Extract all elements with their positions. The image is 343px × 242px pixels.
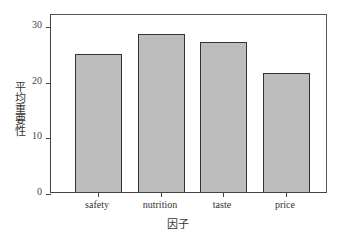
bar-price [263,73,310,192]
x-tick-label: price [245,199,325,210]
y-tick-label: 20 [12,75,42,86]
y-tick [46,83,51,84]
x-tick [223,192,224,197]
x-tick [98,192,99,197]
x-tick [161,192,162,197]
plot-area [50,14,327,193]
x-axis-label: 因子 [167,215,189,231]
x-tick [286,192,287,197]
bar-taste [200,42,247,192]
y-tick [46,138,51,139]
y-axis-label: 平均重要性 [13,81,25,136]
y-tick [46,194,51,195]
y-tick-label: 0 [12,186,42,197]
y-tick [46,27,51,28]
y-tick-label: 30 [12,19,42,30]
bar-nutrition [138,34,185,192]
y-tick-label: 10 [12,130,42,141]
bar-safety [75,54,122,192]
